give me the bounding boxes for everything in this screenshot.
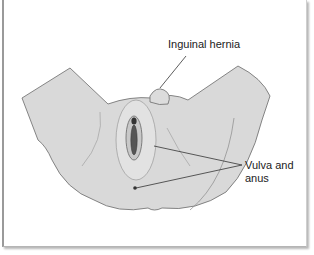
vaginal-opening bbox=[131, 125, 137, 155]
hernia-leader-line bbox=[160, 56, 186, 88]
label-vulva-line1: Vulva and bbox=[245, 159, 305, 172]
label-vulva-line2: anus bbox=[245, 172, 305, 185]
hernia-bulge bbox=[150, 89, 169, 105]
clitoris bbox=[131, 117, 136, 124]
anatomy-diagram bbox=[0, 0, 314, 255]
label-inguinal-hernia: Inguinal hernia bbox=[168, 38, 240, 51]
label-vulva-and-anus: Vulva and anus bbox=[245, 159, 305, 185]
